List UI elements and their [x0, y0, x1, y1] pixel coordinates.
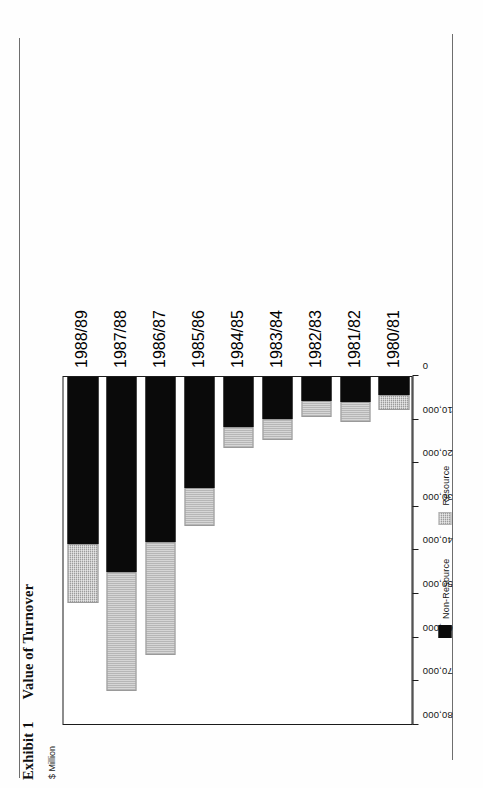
value-axis-tick [412, 506, 418, 507]
scanned-page: Exhibit 1Value of Turnover $ Million 80,… [0, 0, 483, 788]
value-axis-tick [412, 462, 418, 463]
bar-segment-non-resource [67, 377, 97, 544]
bar-group [378, 377, 408, 724]
bar-segment-resource [184, 488, 214, 526]
legend-item-resource: Resource [438, 465, 451, 524]
category-label: 1986/87 [153, 310, 165, 368]
bar-group [223, 377, 253, 724]
value-axis-line [412, 376, 413, 725]
value-axis-tick [412, 375, 418, 376]
bar-segment-non-resource [145, 377, 175, 542]
bar-segment-non-resource [184, 377, 214, 488]
category-label: 1987/88 [114, 310, 126, 368]
value-axis-tick-label: 80,000 [422, 710, 452, 721]
bar-segment-non-resource [301, 377, 331, 401]
bar-segment-non-resource [262, 377, 292, 419]
bar-group [67, 377, 97, 724]
category-label: 1982/83 [309, 310, 321, 368]
value-axis-tick [412, 680, 418, 681]
category-label: 1984/85 [231, 310, 243, 368]
bar-segment-non-resource [378, 377, 408, 395]
category-label: 1985/86 [192, 310, 204, 368]
legend-label-resource: Resource [440, 465, 450, 505]
bar-segment-resource [67, 544, 97, 602]
value-axis-tick-label: 0 [422, 361, 427, 372]
value-axis-tick [412, 637, 418, 638]
legend-label-non-resource: Non-Resource [440, 559, 450, 619]
bar-group [106, 377, 136, 724]
bar-group [301, 377, 331, 724]
grey-hatch-swatch-icon [438, 512, 451, 525]
bar-segment-resource [262, 419, 292, 440]
bar-segment-non-resource [223, 377, 253, 427]
bar-group [184, 377, 214, 724]
bar-group [340, 377, 370, 724]
bar-segment-resource [378, 395, 408, 410]
value-axis-tick [412, 419, 418, 420]
bar-segment-resource [340, 402, 370, 422]
value-axis-tick-label: 10,000 [422, 405, 452, 416]
chart-document: Exhibit 1Value of Turnover $ Million 80,… [0, 0, 483, 788]
value-axis-tick [412, 550, 418, 551]
value-axis-tick-label: 70,000 [422, 666, 452, 677]
bar-segment-non-resource [106, 377, 136, 572]
category-label: 1983/84 [270, 310, 282, 368]
axis-unit-label: $ Million [46, 746, 56, 779]
exhibit-label: Exhibit 1 [19, 721, 35, 780]
bar-segment-resource [106, 572, 136, 692]
category-label: 1988/89 [75, 310, 87, 368]
bar-group [262, 377, 292, 724]
value-axis-tick-label: 20,000 [422, 448, 452, 459]
bar-segment-resource [301, 401, 331, 417]
page-title: Value of Turnover [19, 584, 35, 700]
black-swatch-icon [438, 625, 451, 638]
bar-segment-resource [223, 427, 253, 448]
category-label: 1981/82 [348, 310, 360, 368]
category-label: 1980/81 [387, 310, 399, 368]
bar-segment-resource [145, 542, 175, 655]
chart-legend: Non-Resource Resource [438, 465, 451, 638]
bar-group [145, 377, 175, 724]
legend-item-non-resource: Non-Resource [438, 559, 451, 638]
plot-area [62, 376, 412, 725]
value-axis-tick [412, 593, 418, 594]
bar-segment-non-resource [340, 377, 370, 402]
value-axis-tick [412, 724, 418, 725]
title-block: Exhibit 1Value of Turnover [18, 584, 36, 780]
category-axis-labels: 1980/811981/821982/831983/841984/851985/… [62, 248, 412, 368]
